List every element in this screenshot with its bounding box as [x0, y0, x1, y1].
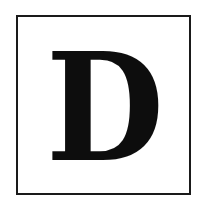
letter-d-glyph: D [46, 19, 164, 195]
letter-tile: D [0, 0, 201, 205]
